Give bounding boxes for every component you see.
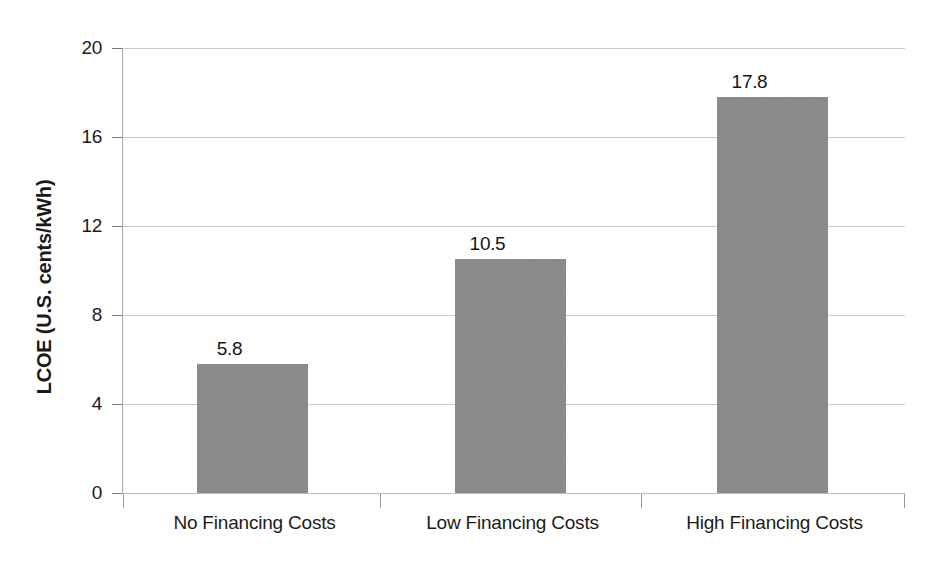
x-axis-separator-left [123,494,124,508]
x-axis-separator-2 [641,494,642,508]
bar-high-financing-costs [717,97,828,493]
plot-area [123,48,905,493]
x-category-label-no-financing-costs: No Financing Costs [132,512,377,534]
y-tick-label-20: 20 [60,37,102,59]
x-category-label-low-financing-costs: Low Financing Costs [390,512,635,534]
y-axis-title: LCOE (U.S. cents/kWh) [27,65,61,510]
bar-value-label-no-financing-costs: 5.8 [142,338,317,360]
bar-chart-figure: LCOE (U.S. cents/kWh) 20 16 12 8 4 0 5.8… [0,0,939,570]
bar-value-label-low-financing-costs: 10.5 [400,233,575,255]
bar-value-label-high-financing-costs: 17.8 [662,71,837,93]
gridline-0 [123,493,905,494]
bar-no-financing-costs [197,364,308,493]
y-tick-label-8: 8 [60,304,102,326]
y-tick-label-16: 16 [60,126,102,148]
y-tick-label-12: 12 [60,215,102,237]
x-axis-separator-1 [380,494,381,508]
y-tick-label-0: 0 [60,482,102,504]
y-tick-label-4: 4 [60,393,102,415]
bar-low-financing-costs [455,259,566,493]
gridline-20 [123,48,905,49]
x-axis-separator-right [904,494,905,508]
x-category-label-high-financing-costs: High Financing Costs [652,512,897,534]
